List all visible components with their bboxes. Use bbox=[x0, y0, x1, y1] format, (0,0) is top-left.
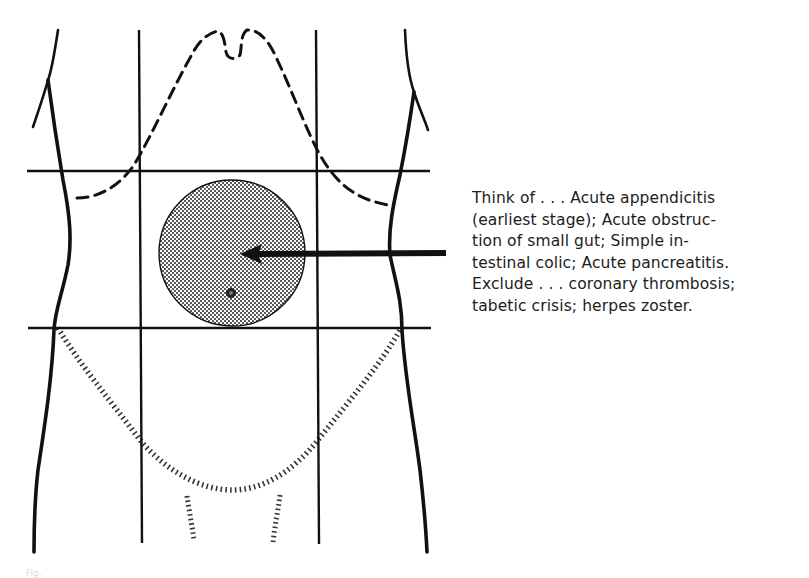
thigh-line-left bbox=[187, 496, 194, 540]
diagnosis-annotation: Think of . . . Acute appendicitis (earli… bbox=[472, 188, 809, 318]
inguinal-outline-hatched bbox=[58, 328, 400, 490]
annotation-line: tion of small gut; Simple in- bbox=[472, 231, 809, 253]
thigh-line-right bbox=[273, 495, 280, 542]
annotation-line: tabetic crisis; herpes zoster. bbox=[472, 296, 809, 318]
body-outline-left bbox=[33, 30, 70, 552]
figure-caption: Fig. bbox=[26, 568, 42, 578]
costal-margin-dashed bbox=[77, 30, 388, 205]
annotation-line: testinal colic; Acute pancreatitis. bbox=[472, 253, 809, 275]
vertical-line-right bbox=[316, 30, 319, 544]
vertical-line-left bbox=[139, 30, 142, 543]
annotation-line: Think of . . . Acute appendicitis bbox=[472, 188, 809, 210]
annotation-line: (earliest stage); Acute obstruc- bbox=[472, 210, 809, 232]
umbilicus-marker bbox=[226, 288, 236, 298]
body-outline-right bbox=[390, 30, 428, 552]
annotation-line: Exclude . . . coronary thrombosis; bbox=[472, 274, 809, 296]
